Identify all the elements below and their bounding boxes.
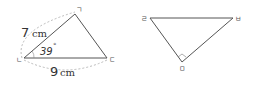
vertex-label-right: ㄷ bbox=[109, 56, 115, 64]
right-triangle: ㄹ ㅂ ㅁ bbox=[141, 15, 241, 73]
vertex-label-bottom: ㅁ bbox=[179, 65, 185, 73]
side-length-left-value: 7 bbox=[21, 25, 29, 40]
right-angle-mark bbox=[178, 54, 186, 57]
angle-degree-symbol: ° bbox=[53, 42, 57, 50]
vertex-label-left: ㄴ bbox=[16, 56, 22, 64]
side-length-left-unit: cm bbox=[32, 28, 48, 39]
left-triangle: ㄱ ㄴ ㄷ 7 cm 39 ° 9 cm bbox=[16, 6, 115, 79]
vertex-label-right: ㅂ bbox=[235, 15, 241, 23]
angle-arc bbox=[32, 51, 34, 58]
diagram: ㄱ ㄴ ㄷ 7 cm 39 ° 9 cm ㄹ ㅂ ㅁ bbox=[0, 0, 261, 86]
vertex-label-top: ㄱ bbox=[76, 6, 82, 14]
angle-value: 39 bbox=[40, 46, 53, 57]
side-length-bottom-unit: cm bbox=[60, 67, 76, 78]
vertex-label-left: ㄹ bbox=[141, 15, 147, 23]
side-length-bottom-value: 9 bbox=[50, 64, 58, 79]
triangle-shape bbox=[150, 18, 233, 62]
